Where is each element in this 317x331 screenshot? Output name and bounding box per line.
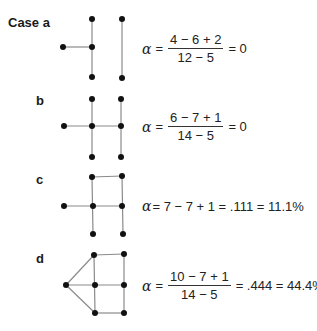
- alpha-symbol: α: [142, 41, 151, 57]
- fraction: 6 − 7 + 1 14 − 5: [168, 111, 223, 142]
- numerator: 6 − 7 + 1: [168, 111, 223, 126]
- graph-case-a: [60, 16, 125, 81]
- result: = .444 = 44.4%: [236, 278, 317, 293]
- formula-case-c: α = 7 − 7 + 1 = .111 = 11.1%: [142, 198, 304, 214]
- result: = 0: [228, 119, 246, 134]
- fraction: 10 − 7 + 1 14 − 5: [168, 270, 231, 301]
- alpha-symbol: α: [142, 278, 151, 294]
- equals-sign: =: [155, 119, 163, 134]
- graph-case-b: [61, 96, 124, 160]
- equals-sign: =: [155, 41, 163, 56]
- alpha-symbol: α: [142, 119, 151, 135]
- graph-case-c: [61, 173, 126, 237]
- result: = 0: [228, 41, 246, 56]
- formula-case-a: α = 4 − 6 + 2 12 − 5 = 0: [142, 33, 250, 64]
- formula-case-b: α = 6 − 7 + 1 14 − 5 = 0: [142, 111, 250, 142]
- denominator: 14 − 5: [168, 285, 231, 301]
- numerator: 4 − 6 + 2: [168, 33, 223, 48]
- numerator: 10 − 7 + 1: [168, 270, 231, 285]
- fraction: 4 − 6 + 2 12 − 5: [168, 33, 223, 64]
- graph-case-d: [63, 251, 127, 316]
- equals-sign: =: [155, 278, 163, 293]
- denominator: 12 − 5: [168, 48, 223, 64]
- denominator: 14 − 5: [168, 126, 223, 142]
- alpha-symbol: α: [142, 198, 151, 214]
- formula-case-d: α = 10 − 7 + 1 14 − 5 = .444 = 44.4%: [142, 270, 317, 301]
- formula-text: = 7 − 7 + 1 = .111 = 11.1%: [152, 200, 303, 213]
